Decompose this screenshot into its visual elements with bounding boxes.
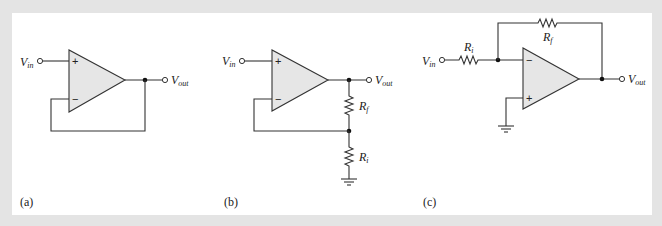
output-terminal-a <box>162 77 167 82</box>
output-terminal-b <box>366 77 371 82</box>
vin-label-c: Vin <box>422 54 436 69</box>
caption-a: (a) <box>20 195 33 209</box>
input-terminal-b <box>239 58 244 63</box>
ri-label-c: Ri <box>463 40 474 55</box>
caption-c: (c) <box>423 195 436 209</box>
resistor-ri-b <box>345 131 353 179</box>
minus-sign-b: − <box>275 93 281 105</box>
minus-sign-c: − <box>526 54 532 66</box>
vout-label-a: Vout <box>171 73 189 88</box>
output-terminal-c <box>619 76 624 81</box>
vout-label-c: Vout <box>628 72 646 87</box>
vin-label-a: Vin <box>20 55 34 70</box>
vin-label-b: Vin <box>222 54 236 69</box>
circuit-b: Vin + − Vout Rf Ri (b) <box>222 50 393 209</box>
ground-icon-b <box>341 179 357 185</box>
rf-label-c: Rf <box>542 30 554 45</box>
ground-wire-c <box>506 98 523 126</box>
circuit-c: Vin Ri Rf − + Vout (c) <box>422 19 646 209</box>
opamp-circuits-diagram: Vin + − Vout (a) Vin + − Vout Rf Ri <box>0 0 662 226</box>
rf-label-b: Rf <box>358 99 370 114</box>
ground-icon-c <box>498 126 514 132</box>
plus-sign-a: + <box>72 55 78 67</box>
feedback-wire-b <box>254 99 349 131</box>
circuit-a: Vin + − Vout (a) <box>20 50 189 209</box>
minus-sign-a: − <box>72 93 78 105</box>
resistor-rf-b <box>345 80 353 131</box>
plus-sign-c: + <box>526 92 532 104</box>
ri-label-b: Ri <box>358 150 369 165</box>
vout-label-b: Vout <box>375 73 393 88</box>
input-terminal-a <box>37 58 42 63</box>
plus-sign-b: + <box>275 55 281 67</box>
resistor-ri-c <box>445 56 523 64</box>
output-node-c <box>600 77 605 82</box>
input-terminal-c <box>439 57 444 62</box>
caption-b: (b) <box>224 195 238 209</box>
